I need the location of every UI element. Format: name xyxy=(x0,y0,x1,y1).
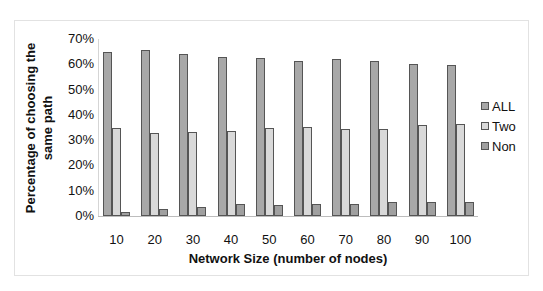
bar-non-70 xyxy=(350,204,359,216)
bar-all-20 xyxy=(141,50,150,216)
y-tick-label: 40% xyxy=(60,108,94,122)
x-tick-label: 100 xyxy=(445,232,475,247)
bar-two-20 xyxy=(150,133,159,216)
y-tick-label: 60% xyxy=(60,57,94,71)
x-tick-label: 20 xyxy=(140,232,170,247)
bar-two-100 xyxy=(456,124,465,216)
bar-non-40 xyxy=(236,204,245,216)
y-axis-label-line-2: same path xyxy=(39,33,56,223)
bar-non-20 xyxy=(159,209,168,216)
bar-non-30 xyxy=(197,207,206,216)
bar-non-80 xyxy=(388,202,397,216)
y-tick-label: 70% xyxy=(60,32,94,46)
legend-label: Two xyxy=(492,119,516,134)
bar-all-100 xyxy=(447,65,456,216)
y-tick-label: 20% xyxy=(60,158,94,172)
legend-swatch xyxy=(481,122,489,130)
x-tick-label: 80 xyxy=(369,232,399,247)
legend: ALLTwoNon xyxy=(481,96,529,156)
bar-two-80 xyxy=(379,129,388,216)
y-tick-label: 10% xyxy=(60,184,94,198)
bar-two-60 xyxy=(303,127,312,216)
bar-non-90 xyxy=(427,202,436,216)
bar-two-40 xyxy=(227,131,236,216)
x-tick-label: 90 xyxy=(407,232,437,247)
legend-item-non: Non xyxy=(481,136,529,156)
legend-label: Non xyxy=(492,139,516,154)
bar-all-50 xyxy=(256,58,265,216)
bar-all-60 xyxy=(294,61,303,216)
bar-all-80 xyxy=(370,61,379,216)
plot-area xyxy=(98,39,478,216)
y-tick-label: 0% xyxy=(60,209,94,223)
y-tick-label: 50% xyxy=(60,83,94,97)
bar-two-50 xyxy=(265,128,274,216)
bar-non-50 xyxy=(274,205,283,216)
bar-all-30 xyxy=(179,54,188,216)
x-tick-label: 60 xyxy=(293,232,323,247)
bar-two-30 xyxy=(188,132,197,216)
bar-all-90 xyxy=(409,64,418,216)
bar-all-70 xyxy=(332,59,341,216)
bar-two-90 xyxy=(418,125,427,216)
legend-item-two: Two xyxy=(481,116,529,136)
x-tick-label: 10 xyxy=(102,232,132,247)
y-axis-label-line-1: Percentage of choosing the xyxy=(22,33,39,223)
x-tick-label: 50 xyxy=(254,232,284,247)
bar-all-40 xyxy=(218,57,227,216)
legend-swatch xyxy=(481,142,489,150)
y-axis-label: Percentage of choosing the same path xyxy=(22,33,58,223)
y-tick-label: 30% xyxy=(60,133,94,147)
bar-two-10 xyxy=(112,128,121,216)
bar-non-60 xyxy=(312,204,321,216)
x-tick-label: 40 xyxy=(216,232,246,247)
x-axis-label: Network Size (number of nodes) xyxy=(98,251,478,266)
bar-all-10 xyxy=(103,52,112,216)
legend-swatch xyxy=(481,102,489,110)
legend-item-all: ALL xyxy=(481,96,529,116)
bar-two-70 xyxy=(341,129,350,216)
x-axis-line xyxy=(98,216,478,217)
bar-non-100 xyxy=(465,202,474,216)
legend-label: ALL xyxy=(492,99,515,114)
x-tick-label: 70 xyxy=(331,232,361,247)
x-tick-label: 30 xyxy=(178,232,208,247)
